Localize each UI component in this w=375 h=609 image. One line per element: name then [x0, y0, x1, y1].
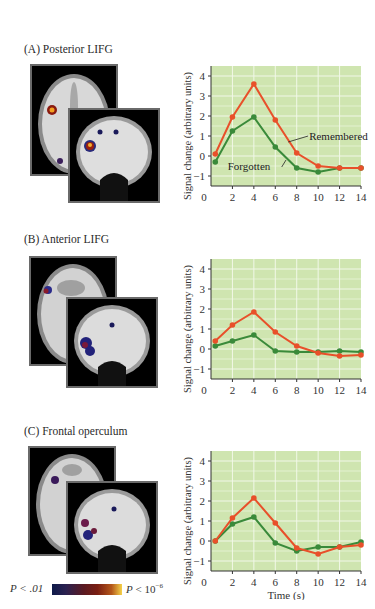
- x-tick-label: 14: [356, 384, 368, 396]
- remembered-point: [251, 495, 257, 501]
- color-gradient-bar: [52, 584, 122, 595]
- y-tick-label: 1: [200, 323, 206, 335]
- x-tick-label: 0: [201, 384, 207, 396]
- remembered-point: [272, 117, 278, 123]
- y-tick-label: 1: [200, 130, 206, 142]
- remembered-point: [358, 542, 364, 548]
- forgotten-point: [212, 343, 218, 349]
- coronal-brain-slice: [66, 481, 158, 574]
- chart-posterior-lifg: −10123402468101214Time (s)Signal change …: [180, 55, 375, 205]
- y-tick-label: 4: [200, 263, 206, 275]
- forgotten-point: [272, 348, 278, 354]
- y-axis-label: Signal change (arbitrary units): [182, 456, 194, 585]
- remembered-point: [315, 163, 321, 169]
- y-tick-label: 4: [200, 70, 206, 82]
- y-axis-label: Signal change (arbitrary units): [182, 71, 194, 200]
- panel-b-title: (B) Anterior LIFG: [24, 233, 109, 245]
- remembered-point: [251, 81, 257, 87]
- remembered-point: [272, 329, 278, 335]
- remembered-point: [230, 515, 236, 521]
- forgotten-point: [294, 165, 300, 171]
- remembered-point: [294, 545, 300, 551]
- x-tick-label: 12: [334, 576, 345, 588]
- x-axis-label: Time (s): [267, 397, 305, 398]
- forgotten-point: [294, 349, 300, 355]
- x-tick-label: 10: [313, 384, 325, 396]
- y-tick-label: −1: [193, 555, 205, 567]
- x-tick-label: 10: [313, 576, 325, 588]
- y-tick-label: 1: [200, 515, 206, 527]
- x-axis-label: Time (s): [267, 204, 305, 205]
- coronal-brain-slice: [66, 297, 158, 388]
- remembered-point: [212, 151, 218, 157]
- x-tick-label: 0: [201, 576, 207, 588]
- x-tick-label: 6: [273, 191, 279, 203]
- y-tick-label: −1: [193, 363, 205, 375]
- remembered-point: [315, 551, 321, 557]
- x-tick-label: 10: [313, 191, 325, 203]
- scale-right-exponent: −6: [155, 582, 162, 590]
- forgotten-point: [212, 159, 218, 165]
- remembered-point: [337, 165, 343, 171]
- x-tick-label: 8: [294, 384, 300, 396]
- x-axis-label: Time (s): [267, 589, 305, 600]
- y-tick-label: 3: [200, 90, 206, 102]
- y-tick-label: 2: [200, 495, 206, 507]
- x-tick-label: 2: [230, 576, 236, 588]
- x-tick-label: 4: [251, 576, 257, 588]
- forgotten-annotation: Forgotten: [228, 160, 271, 172]
- x-tick-label: 4: [251, 384, 257, 396]
- x-tick-label: 8: [294, 191, 300, 203]
- x-tick-label: 2: [230, 191, 236, 203]
- panel-a-title: (A) Posterior LIFG: [24, 43, 113, 55]
- remembered-point: [212, 538, 218, 544]
- forgotten-point: [251, 114, 257, 120]
- remembered-point: [294, 150, 300, 156]
- remembered-point: [212, 338, 218, 344]
- x-tick-label: 12: [334, 191, 345, 203]
- forgotten-point: [251, 514, 257, 520]
- y-tick-label: 4: [200, 455, 206, 467]
- scale-left-label: P < .01: [10, 582, 43, 594]
- chart-anterior-lifg: −10123402468101214Time (s)Signal change …: [180, 248, 375, 398]
- remembered-point: [358, 352, 364, 358]
- forgotten-point: [337, 348, 343, 354]
- x-tick-label: 8: [294, 576, 300, 588]
- remembered-point: [230, 114, 236, 120]
- y-tick-label: 0: [200, 535, 206, 547]
- x-tick-label: 12: [334, 384, 345, 396]
- y-tick-label: 0: [200, 150, 206, 162]
- y-tick-label: 0: [200, 343, 206, 355]
- forgotten-point: [251, 332, 257, 338]
- forgotten-point: [272, 144, 278, 150]
- chart-frontal-operculum: −10123402468101214Time (s)Signal change …: [180, 440, 375, 600]
- y-tick-label: 2: [200, 110, 206, 122]
- y-tick-label: 2: [200, 303, 206, 315]
- scale-right-label: P < 10−6: [126, 582, 163, 595]
- x-tick-label: 4: [251, 191, 257, 203]
- forgotten-point: [315, 544, 321, 550]
- forgotten-point: [230, 128, 236, 134]
- x-tick-label: 6: [273, 576, 279, 588]
- x-tick-label: 14: [356, 576, 368, 588]
- remembered-point: [272, 520, 278, 526]
- x-tick-label: 14: [356, 191, 368, 203]
- remembered-point: [294, 343, 300, 349]
- remembered-point: [358, 165, 364, 171]
- remembered-point: [230, 322, 236, 328]
- forgotten-point: [230, 338, 236, 344]
- y-tick-label: 3: [200, 283, 206, 295]
- coronal-brain-slice: [68, 108, 160, 203]
- forgotten-point: [315, 169, 321, 175]
- remembered-point: [251, 309, 257, 315]
- remembered-point: [337, 544, 343, 550]
- x-tick-label: 0: [201, 191, 207, 203]
- x-tick-label: 2: [230, 384, 236, 396]
- remembered-point: [337, 353, 343, 359]
- y-tick-label: −1: [193, 170, 205, 182]
- scale-right-mid: < 10: [133, 583, 156, 595]
- remembered-annotation: Remembered: [309, 130, 368, 142]
- remembered-point: [315, 350, 321, 356]
- y-axis-label: Signal change (arbitrary units): [182, 264, 194, 393]
- scale-right-p: P: [126, 583, 133, 595]
